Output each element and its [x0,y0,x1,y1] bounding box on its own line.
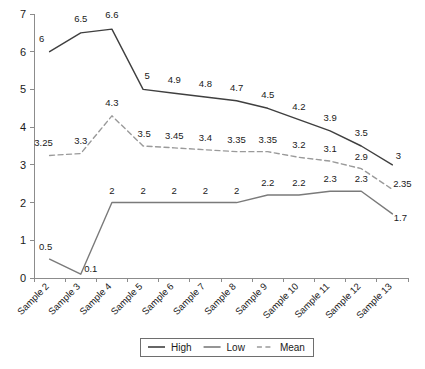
data-label-high: 4.2 [292,101,305,112]
data-label-mean: 3.45 [165,130,184,141]
data-label-low: 0.1 [84,263,97,274]
data-label-low: 2 [140,185,145,196]
data-label-mean: 3.4 [199,132,212,143]
y-axis-tick-label: 2 [20,197,26,209]
data-label-low: 2 [234,185,239,196]
data-label-mean: 3.3 [74,135,87,146]
data-label-high: 6.5 [74,13,87,24]
data-label-high: 4.7 [230,82,243,93]
data-label-low: 2 [203,185,208,196]
y-axis-tick-label: 1 [20,234,26,246]
data-label-high: 3.5 [355,127,368,138]
data-label-high: 4.9 [168,74,181,85]
data-label-high: 6.6 [105,9,118,20]
data-label-high: 4.8 [199,78,212,89]
data-label-high: 3 [396,150,401,161]
data-label-low: 2 [109,185,114,196]
legend-label-mean: Mean [280,342,305,353]
data-label-low: 2.3 [355,173,368,184]
data-label-mean: 3.35 [259,134,278,145]
legend: HighLowMean [140,338,314,356]
data-label-low: 2.3 [323,173,336,184]
data-label-low: 2.2 [261,177,274,188]
y-axis-tick-label: 6 [20,46,26,58]
y-axis-tick-label: 4 [20,121,26,133]
data-label-mean: 2.9 [355,151,368,162]
y-axis-tick-label: 3 [20,159,26,171]
data-label-high: 5 [144,70,149,81]
data-label-mean: 2.35 [393,178,412,189]
data-label-mean: 3.35 [227,134,246,145]
data-label-mean: 3.25 [34,137,53,148]
chart-canvas: 01234567 Sample 2Sample 3Sample 4Sample … [0,0,425,369]
data-label-mean: 3.5 [137,128,150,139]
data-label-low: 2.2 [292,177,305,188]
y-axis-tick-label: 0 [20,272,26,284]
data-label-high: 6 [39,33,44,44]
data-label-low: 2 [172,185,177,196]
data-label-mean: 4.3 [105,97,118,108]
data-label-low: 1.7 [394,212,407,223]
data-label-low: 0.5 [39,241,52,252]
line-chart: 01234567 Sample 2Sample 3Sample 4Sample … [0,0,425,369]
y-axis-tick-label: 5 [20,83,26,95]
legend-label-high: High [171,342,192,353]
data-label-mean: 3.1 [323,143,336,154]
legend-label-low: Low [227,342,246,353]
data-label-high: 4.5 [261,89,274,100]
data-label-high: 3.9 [323,112,336,123]
data-label-mean: 3.2 [292,139,305,150]
y-axis-tick-label: 7 [20,8,26,20]
